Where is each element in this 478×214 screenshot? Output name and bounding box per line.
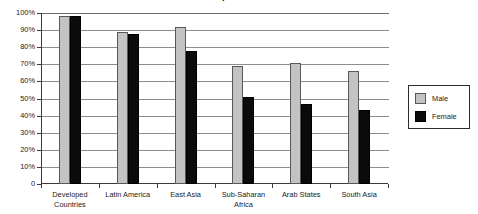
- bar-female: [186, 51, 197, 184]
- y-axis-tick-label: 30%: [1, 129, 35, 136]
- bar-female: [301, 104, 312, 184]
- bar-male: [290, 63, 301, 184]
- y-axis-tick-label: 80%: [1, 43, 35, 50]
- legend-swatch-male: [415, 93, 426, 104]
- y-axis-tick-label: 100%: [1, 9, 35, 16]
- legend-swatch-female: [415, 111, 426, 122]
- bar-group: [59, 13, 81, 184]
- clipped-chart-title: .: [222, 0, 225, 3]
- y-axis-tick-label: 70%: [1, 60, 35, 67]
- x-axis-tick-mark: [330, 184, 331, 188]
- y-axis-tick-label: 60%: [1, 77, 35, 84]
- bar-group: [175, 13, 197, 184]
- bar-female: [243, 97, 254, 184]
- x-axis-tick-mark: [388, 184, 389, 188]
- legend: MaleFemale: [408, 85, 470, 129]
- y-axis-tick-label: 50%: [1, 95, 35, 102]
- bar-male: [117, 32, 128, 184]
- bar-chart: . 100%90%80%70%60%50%40%30%20%10%0 Devel…: [0, 0, 478, 214]
- bar-group: [117, 13, 139, 184]
- x-axis-tick-mark: [272, 184, 273, 188]
- x-axis-tick-mark: [99, 184, 100, 188]
- bar-male: [232, 66, 243, 184]
- bar-female: [128, 34, 139, 184]
- bar-group: [232, 13, 254, 184]
- bars-layer: [41, 13, 388, 184]
- x-axis-tick-mark: [41, 184, 42, 188]
- bar-male: [59, 16, 70, 184]
- legend-label: Female: [432, 112, 457, 121]
- bar-female: [70, 16, 81, 184]
- x-axis-category-label: South Asia: [322, 190, 396, 200]
- y-axis-tick-label: 90%: [1, 26, 35, 33]
- y-axis-tick-label: 10%: [1, 163, 35, 170]
- bar-male: [175, 27, 186, 184]
- legend-label: Male: [432, 94, 448, 103]
- bar-female: [359, 110, 370, 184]
- bar-group: [348, 13, 370, 184]
- y-axis-tick-label: 40%: [1, 112, 35, 119]
- y-axis-tick-label: 0: [1, 180, 35, 187]
- y-axis-tick-label: 20%: [1, 146, 35, 153]
- x-axis-tick-mark: [215, 184, 216, 188]
- x-axis-tick-mark: [157, 184, 158, 188]
- bar-group: [290, 13, 312, 184]
- bar-male: [348, 71, 359, 184]
